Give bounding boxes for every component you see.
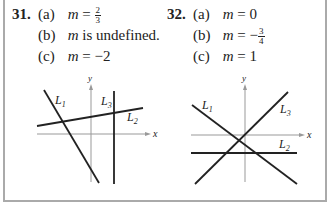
svg-text:y: y xyxy=(87,73,92,83)
label-L2: L2 xyxy=(126,110,138,126)
svg-text:x: x xyxy=(306,129,312,140)
graph-32: y x L1 L2 L3 xyxy=(163,0,327,207)
x-axis-arrow-icon xyxy=(145,132,151,136)
y-axis-arrow-icon xyxy=(89,84,93,90)
svg-text:x: x xyxy=(152,128,158,139)
svg-text:y: y xyxy=(241,73,246,83)
label-L2: L2 xyxy=(278,137,290,153)
label-L3: L3 xyxy=(100,94,112,110)
label-L3: L3 xyxy=(279,102,291,118)
graph-31: y x L1 L2 L3 xyxy=(0,0,163,207)
label-L1: L1 xyxy=(54,93,66,109)
y-axis-arrow-icon xyxy=(243,84,247,90)
label-L1: L1 xyxy=(201,98,213,114)
x-axis-arrow-icon xyxy=(299,133,305,137)
